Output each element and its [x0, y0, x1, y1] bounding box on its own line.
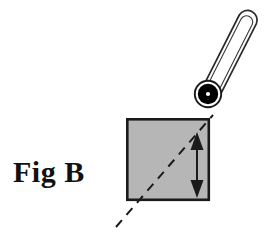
figure-caption: Fig B — [13, 155, 85, 189]
probe-bulb — [195, 81, 221, 107]
probe-bulb-highlight — [206, 92, 210, 96]
figure-illustration — [0, 0, 269, 239]
figure-canvas: Fig B — [0, 0, 269, 239]
